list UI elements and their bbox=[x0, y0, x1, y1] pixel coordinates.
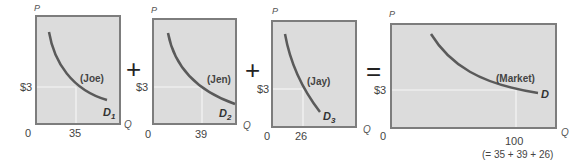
origin-label: 0 bbox=[145, 128, 151, 140]
quantity-axis-label: Q bbox=[363, 124, 371, 135]
panel-jay: P $3 (Jay) D3 Q 0 26 bbox=[257, 6, 371, 142]
panel-jen: P $3 (Jen) D2 Q 0 39 bbox=[136, 5, 251, 140]
panel-name-label: (Market) bbox=[496, 73, 535, 84]
quantity-tick-label: 39 bbox=[195, 128, 207, 140]
panel-joe: P $3 (Joe) D1 Q 0 35 bbox=[20, 3, 132, 139]
panel-market: P $3 (Market) D Q 0 100 (= 35 + 39 + 26) bbox=[374, 9, 569, 160]
origin-label: 0 bbox=[264, 130, 270, 142]
price-tick-label: $3 bbox=[374, 84, 386, 96]
price-tick-label: $3 bbox=[257, 83, 269, 95]
panel-name-label: (Jay) bbox=[307, 76, 330, 87]
plus-operator: + bbox=[126, 54, 141, 84]
price-axis-label: P bbox=[272, 6, 278, 16]
quantity-axis-label: Q bbox=[124, 119, 132, 130]
price-axis-label: P bbox=[389, 9, 395, 19]
quantity-axis-label: Q bbox=[243, 120, 251, 131]
origin-label: 0 bbox=[380, 130, 386, 142]
quantity-tick-label: 26 bbox=[295, 130, 307, 142]
panel-name-label: (Joe) bbox=[80, 73, 104, 84]
panel-name-label: (Jen) bbox=[207, 74, 231, 85]
quantity-tick-label: 35 bbox=[69, 127, 81, 139]
quantity-axis-label: Q bbox=[561, 127, 569, 138]
sum-annotation: (= 35 + 39 + 26) bbox=[482, 149, 553, 160]
origin-label: 0 bbox=[25, 127, 31, 139]
price-tick-label: $3 bbox=[20, 81, 32, 93]
curve-label: D bbox=[541, 88, 549, 100]
price-axis-label: P bbox=[34, 3, 40, 13]
plus-operator: + bbox=[245, 55, 260, 85]
price-tick-label: $3 bbox=[136, 81, 148, 93]
demand-summation-diagram: P $3 (Joe) D1 Q 0 35 + P $3 (Jen) D2 Q 0… bbox=[0, 0, 584, 164]
equals-operator: = bbox=[366, 56, 381, 86]
price-axis-label: P bbox=[151, 5, 157, 15]
quantity-tick-label: 100 bbox=[505, 135, 523, 147]
